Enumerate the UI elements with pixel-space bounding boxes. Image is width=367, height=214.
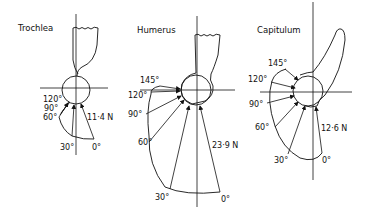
angle-label: 145°	[140, 76, 159, 85]
vector-60	[275, 102, 298, 127]
vector-90	[146, 96, 181, 114]
angle-label: 60°	[138, 138, 152, 147]
angle-label: 30°	[155, 193, 169, 202]
vector-145	[285, 69, 298, 80]
vector-30	[288, 106, 305, 154]
panel-trochlea: Trochlea 120° 90° 60° 30° 0° 11·4 N	[17, 14, 113, 155]
angle-label: 60°	[43, 113, 57, 122]
panel-humerus: Humerus 145° 120° 90° 60° 30° 0° 23·9 N	[128, 16, 238, 207]
angle-label: 0°	[322, 156, 331, 165]
force-label: 12·6 N	[321, 124, 347, 133]
vector-120	[61, 102, 70, 113]
angle-label: 90°	[44, 104, 58, 113]
angle-label: 30°	[274, 156, 288, 165]
vector-145	[160, 86, 180, 89]
angle-label: 90°	[128, 110, 142, 119]
angle-label: 120°	[128, 91, 147, 100]
angle-label: 30°	[60, 143, 74, 152]
panel-title: Capitulum	[257, 25, 301, 35]
vector-60	[149, 100, 184, 142]
angle-label: 145°	[268, 59, 287, 68]
vector-90	[267, 96, 294, 103]
angle-label: 120°	[248, 75, 267, 84]
angle-label: 90°	[249, 100, 263, 109]
bone-shaft	[182, 34, 220, 101]
condyle-circle	[293, 76, 323, 106]
angle-label: 0°	[221, 195, 230, 204]
panel-title: Trochlea	[17, 23, 53, 33]
force-label: 11·4 N	[87, 113, 113, 122]
panel-title: Humerus	[137, 25, 176, 35]
condyle-outline	[181, 84, 205, 104]
force-vector-diagram: Trochlea 120° 90° 60° 30° 0° 11·4 N Hume…	[0, 0, 367, 214]
force-envelope	[148, 86, 220, 193]
angle-label: 120°	[43, 95, 62, 104]
vector-30	[170, 106, 189, 189]
angle-label: 60°	[255, 123, 269, 132]
vector-30	[72, 105, 74, 136]
vector-120	[151, 91, 180, 92]
angle-label: 0°	[92, 143, 101, 152]
force-label: 23·9 N	[212, 141, 238, 150]
bone-shaft	[73, 27, 98, 76]
vector-120	[271, 82, 295, 88]
panel-capitulum: Capitulum 145° 120° 90° 60° 30° 0° 12·6 …	[248, 2, 352, 180]
